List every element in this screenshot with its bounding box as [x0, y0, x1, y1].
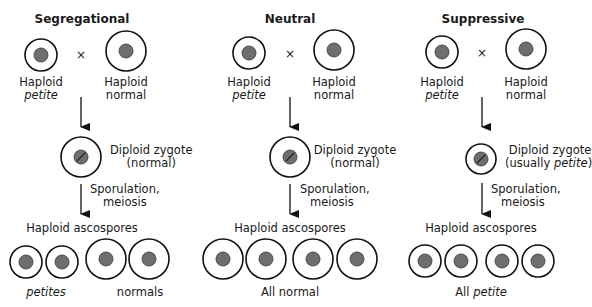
process-label: Sporulation, meiosis [300, 183, 370, 209]
spores-label: Haploid ascospores [234, 222, 346, 235]
label-line-italic: petite [227, 89, 271, 102]
process-label: Sporulation, meiosis [90, 183, 160, 209]
label-line: (normal) [110, 157, 193, 170]
label-text: ) [588, 156, 592, 170]
normal-spore-cell-icon [86, 239, 126, 279]
petite-parent-cell-icon [233, 37, 265, 69]
spores-label: Haploid ascospores [26, 222, 138, 235]
panel-title: Suppressive [442, 12, 525, 26]
petite-spore-cell-icon [522, 245, 554, 277]
label-text: All [455, 285, 473, 299]
diploid-zygote-cell-icon [61, 137, 101, 177]
normal-spore-cell-icon [246, 239, 286, 279]
normal-parent-cell-icon [506, 29, 546, 69]
petite-parent-label: Haploid petite [227, 76, 271, 102]
normal-parent-cell-icon [314, 30, 354, 70]
panel-title: Neutral [265, 12, 316, 26]
label-line: (usually petite) [505, 157, 592, 170]
process-label: Sporulation, meiosis [491, 183, 561, 209]
petite-spore-cell-icon [409, 245, 441, 277]
outcome-label: All petite [455, 286, 507, 299]
label-text-italic: petite [473, 285, 507, 299]
label-line-italic: petite [19, 89, 63, 102]
normal-parent-cell-icon [106, 31, 146, 71]
label-line: meiosis [300, 196, 370, 209]
petite-parent-label: Haploid petite [19, 76, 63, 102]
normal-parent-label: Haploid normal [504, 76, 548, 102]
label-line-italic: petite [420, 89, 464, 102]
diploid-zygote-cell-icon [466, 144, 496, 174]
label-line: normal [104, 89, 148, 102]
petite-parent-label: Haploid petite [420, 76, 464, 102]
cross-symbol: × [285, 47, 295, 61]
petite-parent-cell-icon [426, 36, 458, 68]
label-line: (normal) [314, 157, 397, 170]
spores-label: Haploid ascospores [425, 222, 537, 235]
normal-parent-label: Haploid normal [104, 76, 148, 102]
cross-symbol: × [477, 46, 487, 60]
petite-parent-cell-icon [25, 39, 57, 71]
outcome-petites-label: petites [26, 286, 66, 299]
petite-spore-cell-icon [10, 246, 42, 278]
zygote-label: Diploid zygote (normal) [110, 144, 193, 170]
label-text: (usually [505, 156, 554, 170]
label-line: normal [312, 89, 356, 102]
cross-symbol: × [76, 48, 86, 62]
normal-spore-cell-icon [293, 239, 333, 279]
label-line: meiosis [90, 196, 160, 209]
normal-parent-label: Haploid normal [312, 76, 356, 102]
petite-spore-cell-icon [486, 245, 518, 277]
zygote-label: Diploid zygote (usually petite) [505, 144, 592, 170]
diploid-zygote-cell-icon [270, 137, 310, 177]
normal-spore-cell-icon [337, 239, 377, 279]
label-line: meiosis [491, 196, 561, 209]
zygote-label: Diploid zygote (normal) [314, 144, 397, 170]
panel-title: Segregational [35, 12, 130, 26]
outcome-label: All normal [261, 286, 319, 299]
label-text-italic: petite [554, 156, 588, 170]
normal-spore-cell-icon [203, 239, 243, 279]
normal-spore-cell-icon [129, 239, 169, 279]
petite-spore-cell-icon [445, 245, 477, 277]
label-line: normal [504, 89, 548, 102]
petite-spore-cell-icon [46, 246, 78, 278]
outcome-normals-label: normals [117, 286, 163, 299]
